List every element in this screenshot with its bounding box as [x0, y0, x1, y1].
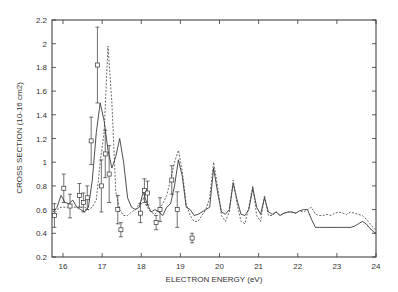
- y-tick-label: 1: [43, 158, 48, 167]
- y-tick-label: 0.8: [36, 182, 48, 191]
- data-marker-square: [138, 211, 142, 215]
- data-marker-square: [154, 221, 158, 225]
- data-marker-square: [62, 186, 66, 190]
- plot-frame: [52, 20, 376, 257]
- data-series: [52, 27, 376, 243]
- x-tick-label: 17: [98, 262, 107, 271]
- cross-section-chart: 1617181920212223240.20.40.60.811.21.41.6…: [0, 0, 398, 292]
- y-axis-label: CROSS SECTION (10-16 cm2): [15, 82, 24, 194]
- data-marker-square: [158, 208, 162, 212]
- y-tick-label: 0.6: [36, 206, 48, 215]
- data-marker-square: [68, 204, 72, 208]
- data-marker-square: [190, 236, 194, 240]
- y-tick-label: 1.4: [36, 111, 48, 120]
- y-tick-label: 1.8: [36, 63, 48, 72]
- x-tick-label: 23: [332, 262, 341, 271]
- data-marker-square: [146, 191, 150, 195]
- axes: 1617181920212223240.20.40.60.811.21.41.6…: [36, 16, 381, 271]
- y-tick-label: 2: [43, 40, 48, 49]
- data-marker-square: [107, 172, 111, 176]
- data-marker-square: [175, 208, 179, 212]
- x-tick-label: 19: [176, 262, 185, 271]
- x-tick-label: 24: [372, 262, 381, 271]
- x-tick-label: 18: [137, 262, 146, 271]
- y-tick-label: 2.2: [36, 16, 48, 25]
- data-marker-square: [85, 196, 89, 200]
- data-marker-square: [77, 193, 81, 197]
- data-marker-square: [99, 184, 103, 188]
- y-tick-label: 0.2: [36, 253, 48, 262]
- data-marker-square: [95, 63, 99, 67]
- x-tick-label: 20: [215, 262, 224, 271]
- y-tick-label: 1.2: [36, 135, 48, 144]
- x-tick-label: 22: [293, 262, 302, 271]
- data-marker-square: [52, 214, 56, 218]
- data-marker-square: [89, 139, 93, 143]
- data-marker-square: [116, 208, 120, 212]
- x-tick-label: 16: [59, 262, 68, 271]
- plot-svg: 1617181920212223240.20.40.60.811.21.41.6…: [0, 0, 398, 292]
- x-tick-label: 21: [254, 262, 263, 271]
- y-tick-label: 1.6: [36, 87, 48, 96]
- x-axis-label: ELECTRON ENERGY (eV): [166, 275, 263, 284]
- data-marker-square: [81, 200, 85, 204]
- y-tick-label: 0.4: [36, 229, 48, 238]
- data-marker-square: [170, 178, 174, 182]
- data-marker-square: [103, 152, 107, 156]
- data-marker-square: [119, 228, 123, 232]
